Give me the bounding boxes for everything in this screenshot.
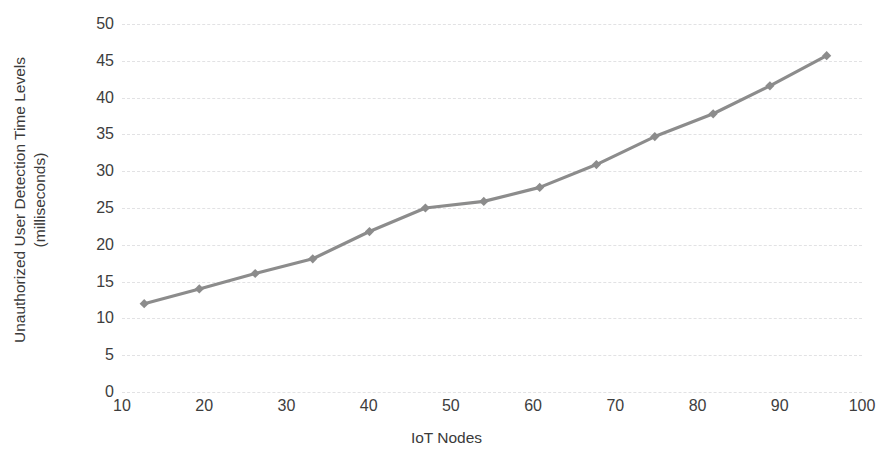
x-tick-label: 80	[668, 396, 728, 416]
data-point-marker	[421, 203, 430, 212]
data-point-marker	[479, 197, 488, 206]
y-tick-label: 45	[68, 53, 114, 69]
y-tick-label: 35	[68, 126, 114, 142]
y-axis-title-line2: (milliseconds)	[30, 57, 50, 343]
x-axis-tick-labels: 102030405060708090100	[0, 396, 893, 422]
y-tick-label: 30	[68, 163, 114, 179]
y-tick-label: 5	[68, 347, 114, 363]
data-point-marker	[195, 284, 204, 293]
data-point-marker	[251, 269, 260, 278]
plot-area	[122, 24, 862, 392]
y-axis-title: Unauthorized User Detection Time Levels …	[0, 0, 60, 400]
y-tick-label: 20	[68, 237, 114, 253]
gridline	[122, 392, 862, 393]
x-tick-label: 10	[92, 396, 152, 416]
x-axis-title: IoT Nodes	[0, 428, 893, 448]
y-tick-label: 50	[68, 16, 114, 32]
x-tick-label: 100	[832, 396, 892, 416]
x-tick-label: 60	[503, 396, 563, 416]
y-tick-label: 10	[68, 310, 114, 326]
series-layer	[122, 24, 862, 392]
x-tick-label: 50	[421, 396, 481, 416]
series-line	[144, 56, 826, 304]
line-chart: Unauthorized User Detection Time Levels …	[0, 0, 893, 473]
y-axis-title-line1: Unauthorized User Detection Time Levels	[10, 57, 30, 343]
x-tick-label: 90	[750, 396, 810, 416]
data-point-marker	[535, 183, 544, 192]
data-point-marker	[140, 299, 149, 308]
y-tick-label: 15	[68, 274, 114, 290]
x-tick-label: 20	[174, 396, 234, 416]
x-tick-label: 40	[339, 396, 399, 416]
y-tick-label: 25	[68, 200, 114, 216]
x-tick-label: 30	[256, 396, 316, 416]
x-tick-label: 70	[585, 396, 645, 416]
y-tick-label: 40	[68, 90, 114, 106]
